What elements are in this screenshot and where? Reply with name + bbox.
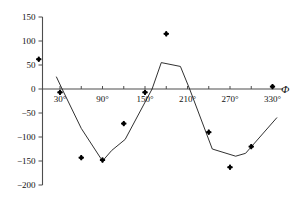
data-point-marker: [272, 84, 274, 89]
phi-vs-value-scatter-chart: 150100500−50−100−150−200 30°90°150°210°2…: [0, 0, 296, 210]
data-point-marker: [229, 165, 231, 170]
data-point-marker: [250, 144, 252, 149]
y-axis-tick-label: −50: [21, 108, 36, 118]
y-axis-tick-label: −200: [17, 180, 36, 190]
chart-container: 150100500−50−100−150−200 30°90°150°210°2…: [0, 0, 296, 210]
x-axis-tick-label: 330°: [264, 94, 282, 104]
data-point-marker: [102, 157, 104, 162]
data-point-marker: [123, 121, 125, 126]
data-point-marker: [59, 90, 61, 95]
data-point-marker: [208, 130, 210, 135]
x-axis: 30°90°150°210°270°330°: [43, 86, 284, 104]
x-axis-tick-label: 90°: [96, 94, 109, 104]
data-point-marker: [144, 90, 146, 95]
x-axis-tick-label: 270°: [221, 94, 239, 104]
y-axis-tick-label: 100: [22, 36, 36, 46]
data-point-marker: [165, 31, 167, 36]
data-points: [36, 31, 275, 170]
y-axis-tick-label: −150: [17, 156, 36, 166]
x-axis-symbol-label: Φ: [281, 83, 290, 95]
data-point-marker: [38, 57, 40, 62]
model-curve-path: [56, 63, 276, 161]
y-axis-tick-label: 0: [31, 84, 36, 94]
y-axis-tick-label: −100: [17, 132, 36, 142]
y-axis-tick-label: 150: [22, 12, 36, 22]
x-axis-tick-label: 30°: [54, 94, 67, 104]
data-point-marker: [80, 155, 82, 160]
y-axis-tick-label: 50: [27, 60, 37, 70]
y-axis: 150100500−50−100−150−200: [17, 12, 43, 190]
model-curve: [56, 63, 276, 161]
